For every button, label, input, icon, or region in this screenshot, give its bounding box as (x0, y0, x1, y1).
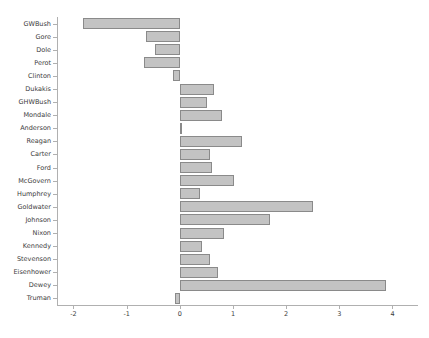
bar-humphrey (180, 188, 200, 199)
bar-reagan (180, 136, 242, 147)
bar-eisenhower (180, 267, 218, 278)
bar-dewey (180, 280, 386, 291)
y-tick-ghwbush (53, 102, 57, 103)
x-tick-label-3: 3 (337, 311, 341, 318)
bar-truman (175, 293, 180, 304)
y-tick-label-clinton: Clinton (28, 73, 51, 80)
bar-nixon (180, 228, 224, 239)
bar-anderson (180, 123, 183, 134)
x-tick-2 (286, 305, 287, 309)
y-tick-label-gwbush: GWBush (23, 20, 51, 27)
y-tick-mcgovern (53, 181, 57, 182)
y-tick-label-truman: Truman (27, 295, 51, 302)
y-tick-clinton (53, 76, 57, 77)
bar-mondale (180, 110, 222, 121)
bar-ford (180, 162, 212, 173)
y-tick-dukakis (53, 89, 57, 90)
x-tick-4 (392, 305, 393, 309)
y-tick-label-eisenhower: Eisenhower (13, 269, 51, 276)
x-tick-1 (233, 305, 234, 309)
x-tick-label-2: 2 (284, 311, 288, 318)
x-tick-3 (339, 305, 340, 309)
y-tick-nixon (53, 233, 57, 234)
y-tick-label-dole: Dole (36, 46, 51, 53)
bar-carter (180, 149, 210, 160)
y-tick-label-dewey: Dewey (29, 282, 51, 289)
y-tick-truman (53, 298, 57, 299)
y-tick-johnson (53, 220, 57, 221)
bar-perot (144, 57, 180, 68)
y-tick-dole (53, 50, 57, 51)
y-tick-label-kennedy: Kennedy (23, 243, 51, 250)
y-tick-label-perot: Perot (34, 60, 51, 67)
y-tick-label-anderson: Anderson (20, 125, 51, 132)
y-tick-label-dukakis: Dukakis (25, 86, 51, 93)
y-tick-stevenson (53, 259, 57, 260)
y-tick-dewey (53, 285, 57, 286)
bar-ghwbush (180, 97, 207, 108)
y-tick-label-goldwater: Goldwater (18, 204, 51, 211)
bar-clinton (173, 70, 180, 81)
x-tick-0 (180, 305, 181, 309)
plot-area: GWBushGoreDolePerotClintonDukakisGHWBush… (57, 17, 418, 305)
x-tick-label-1: 1 (231, 311, 235, 318)
y-tick-ford (53, 168, 57, 169)
y-tick-label-ghwbush: GHWBush (19, 99, 51, 106)
x-tick-label-neg2: -2 (70, 311, 76, 318)
x-axis-spine (57, 305, 418, 306)
y-tick-label-stevenson: Stevenson (17, 256, 51, 263)
y-tick-reagan (53, 141, 57, 142)
bar-mcgovern (180, 175, 234, 186)
y-tick-label-johnson: Johnson (25, 217, 51, 224)
y-tick-label-reagan: Reagan (27, 138, 51, 145)
x-tick-neg1 (127, 305, 128, 309)
x-tick-neg2 (73, 305, 74, 309)
x-tick-label-0: 0 (178, 311, 182, 318)
y-tick-label-gore: Gore (35, 33, 51, 40)
y-tick-kennedy (53, 246, 57, 247)
y-tick-mondale (53, 115, 57, 116)
y-axis-spine (57, 17, 58, 305)
y-tick-gore (53, 37, 57, 38)
bar-dukakis (180, 84, 214, 95)
bar-johnson (180, 214, 270, 225)
y-tick-gwbush (53, 24, 57, 25)
y-tick-label-carter: Carter (31, 151, 51, 158)
y-tick-eisenhower (53, 272, 57, 273)
y-tick-perot (53, 63, 57, 64)
x-tick-label-4: 4 (390, 311, 394, 318)
y-tick-label-ford: Ford (37, 164, 51, 171)
x-tick-label-neg1: -1 (123, 311, 129, 318)
bar-goldwater (180, 201, 313, 212)
bar-gwbush (83, 18, 180, 29)
bar-dole (155, 44, 180, 55)
y-tick-humphrey (53, 194, 57, 195)
y-tick-label-mcgovern: McGovern (18, 177, 51, 184)
y-tick-label-humphrey: Humphrey (17, 190, 51, 197)
bar-stevenson (180, 254, 210, 265)
bar-gore (146, 31, 180, 42)
y-tick-label-mondale: Mondale (23, 112, 51, 119)
chart-figure: GWBushGoreDolePerotClintonDukakisGHWBush… (0, 0, 429, 338)
bar-kennedy (180, 241, 202, 252)
y-tick-label-nixon: Nixon (33, 230, 51, 237)
y-tick-goldwater (53, 207, 57, 208)
y-tick-carter (53, 154, 57, 155)
y-tick-anderson (53, 128, 57, 129)
